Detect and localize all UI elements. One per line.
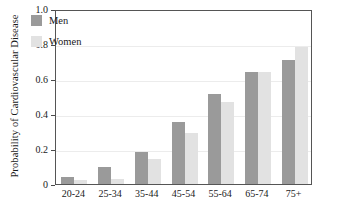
legend: MenWomen [31,12,81,54]
plot-area [55,10,312,185]
y-tick-label: 0.4 [22,110,48,120]
bar-men-25-34 [98,167,111,184]
legend-swatch-icon [31,36,42,47]
bar-women-25-34 [111,179,124,184]
y-axis-title: Probability of Cardiovascular Disease [8,6,22,186]
y-tick-mark [51,45,55,46]
bar-men-65-74 [245,72,258,184]
bar-women-55-64 [221,102,234,184]
y-tick-label: 0 [22,180,48,190]
legend-item-women: Women [31,33,81,50]
bar-women-45-54 [185,133,198,184]
bar-men-35-44 [135,152,148,184]
bar-men-55-64 [208,94,221,184]
bar-women-75+ [295,47,308,184]
legend-label: Men [49,15,68,26]
y-tick-mark [51,185,55,186]
bar-men-45-54 [172,122,185,184]
x-tick-label-35-44: 35-44 [128,188,165,200]
legend-item-men: Men [31,12,81,29]
bar-women-35-44 [148,159,161,184]
x-axis-tick-labels: 20-2425-3435-4445-5455-6465-7475+ [55,188,312,202]
y-tick-label: 0.2 [22,145,48,155]
y-tick-mark [51,150,55,151]
bar-men-75+ [282,60,295,184]
bar-women-20-24 [74,180,87,184]
y-tick-mark [51,80,55,81]
x-tick-label-65-74: 65-74 [239,188,276,200]
cardiovascular-disease-bar-chart: Probability of Cardiovascular Disease 00… [0,0,337,204]
x-tick-label-25-34: 25-34 [92,188,129,200]
x-tick-label-45-54: 45-54 [165,188,202,200]
bars-layer [56,11,311,184]
y-tick-mark [51,10,55,11]
x-tick-label-20-24: 20-24 [55,188,92,200]
x-tick-label-75+: 75+ [275,188,312,200]
bar-men-20-24 [61,177,74,184]
y-tick-mark [51,115,55,116]
x-tick-label-55-64: 55-64 [202,188,239,200]
legend-swatch-icon [31,15,42,26]
bar-women-65-74 [258,72,271,184]
y-tick-label: 0.6 [22,75,48,85]
